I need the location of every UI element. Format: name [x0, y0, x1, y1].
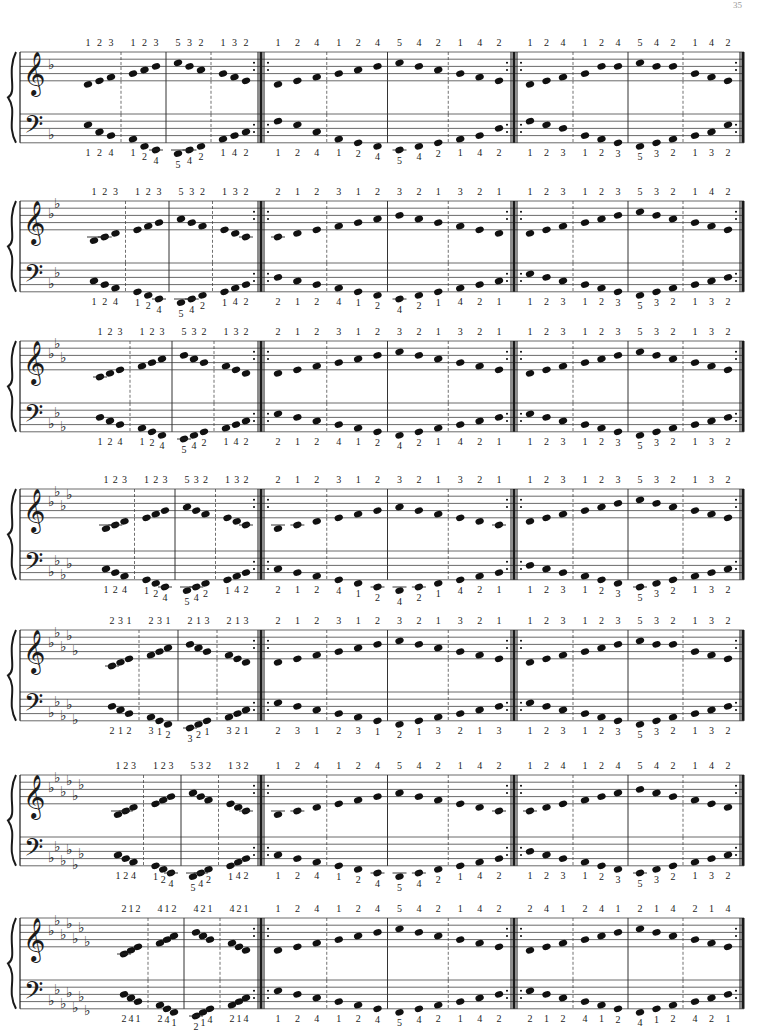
fingering-number: 2	[599, 474, 604, 485]
note-head	[723, 76, 733, 85]
fingering-number: 3	[188, 733, 193, 744]
fingering-number: 1	[205, 726, 210, 737]
note-head	[668, 932, 678, 941]
bass-clef-icon: 𝄢	[24, 259, 43, 294]
note-head	[558, 510, 568, 519]
fingering-number: 1	[583, 870, 588, 881]
fingering-number: 2	[235, 725, 240, 736]
fingering-number: 3	[709, 615, 714, 626]
note-head	[312, 651, 322, 660]
fingering-number: 4	[194, 592, 199, 603]
system-1: 𝄞𝄢♭♭123123532132124124542142124124542142…	[8, 37, 744, 170]
fingering-number: 3	[192, 326, 197, 337]
fingering-number: 2	[356, 37, 361, 48]
treble-clef-icon: 𝄞	[23, 629, 45, 675]
note-head	[115, 658, 125, 667]
note-head	[334, 513, 344, 522]
fingering-number: 1	[295, 186, 300, 197]
note-head	[613, 1004, 623, 1013]
note-head	[394, 924, 404, 933]
repeat-dot	[520, 211, 522, 213]
note-head	[455, 647, 465, 656]
fingering-number: 1	[583, 615, 588, 626]
fingering-number: 2	[726, 725, 731, 736]
fingering-number: 4	[234, 584, 239, 595]
fingering-number: 1	[436, 615, 441, 626]
note-head	[394, 872, 404, 881]
fingering-number: 2	[295, 1013, 300, 1024]
flat-icon: ♭	[72, 642, 79, 658]
note-head	[651, 716, 661, 725]
repeat-dot	[267, 499, 269, 501]
fingering-number: 1	[295, 326, 300, 337]
note-head	[353, 932, 363, 941]
note-head	[224, 713, 234, 722]
note-head	[143, 291, 153, 300]
note-head	[475, 939, 485, 948]
note-head	[525, 561, 535, 570]
note-head	[668, 424, 678, 433]
fingering-number: 2	[230, 1013, 235, 1024]
note-head	[121, 854, 131, 863]
fingering-number: 1	[436, 474, 441, 485]
note-head	[353, 796, 363, 805]
note-head	[690, 131, 700, 140]
exercise-section: 212312321321212412421421	[271, 186, 522, 315]
note-head	[189, 355, 199, 364]
fingering-number: 1	[497, 436, 502, 447]
fingering-number: 1	[583, 326, 588, 337]
repeat-dot	[506, 997, 508, 999]
note-head	[475, 858, 485, 867]
note-head	[394, 347, 404, 356]
exercise-section: 123123532142123123532132	[525, 186, 743, 311]
fingering-number: 4	[131, 870, 136, 881]
fingering-number: 2	[726, 186, 731, 197]
fingering-number: 2	[544, 147, 549, 158]
note-head	[185, 640, 195, 649]
fingering-number: 1	[157, 726, 162, 737]
note-head	[541, 702, 551, 711]
fingering-number: 4	[314, 760, 319, 771]
repeat-dot	[253, 506, 255, 508]
fingering-number: 2	[477, 186, 482, 197]
repeat-dot	[506, 647, 508, 649]
repeat-dot	[267, 702, 269, 704]
fingering-number: 1	[153, 871, 158, 882]
note-head	[613, 499, 623, 508]
repeat-dot	[267, 358, 269, 360]
note-head	[525, 369, 535, 378]
fingering-number: 3	[118, 615, 123, 626]
fingering-number: 1	[654, 903, 659, 914]
note-head	[241, 854, 251, 863]
fingering-number: 2	[113, 474, 118, 485]
note-head	[723, 120, 733, 129]
repeat-dot	[520, 640, 522, 642]
note-head	[232, 572, 242, 581]
fingering-number: 2	[194, 1021, 199, 1032]
note-head	[596, 503, 606, 512]
fingering-number: 3	[561, 326, 566, 337]
note-head	[706, 510, 716, 519]
fingering-number: 2	[201, 903, 206, 914]
repeat-dot	[506, 854, 508, 856]
note-head	[706, 706, 716, 715]
note-head	[119, 572, 129, 581]
repeat-dot	[253, 124, 255, 126]
note-head	[312, 706, 322, 715]
note-head	[312, 572, 322, 581]
note-head	[115, 365, 125, 374]
fingering-number: 2	[416, 186, 421, 197]
repeat-dot	[520, 792, 522, 794]
fingering-number: 3	[336, 326, 341, 337]
fingering-number: 3	[616, 615, 621, 626]
repeat-dot	[735, 568, 737, 570]
note-head	[635, 207, 645, 216]
note-head	[706, 994, 716, 1003]
bass-clef-icon: 𝄢	[24, 547, 43, 582]
note-head	[292, 365, 302, 374]
fingering-number: 2	[244, 474, 249, 485]
bass-clef-icon: 𝄢	[24, 976, 43, 1011]
note-head	[137, 362, 147, 371]
note-head	[541, 225, 551, 234]
repeat-dot	[267, 928, 269, 930]
